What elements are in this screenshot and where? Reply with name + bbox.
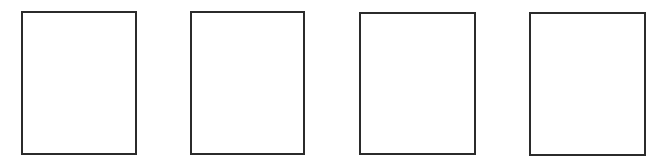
blank-frame-1	[21, 11, 137, 155]
blank-frame-2	[190, 11, 305, 155]
blank-frame-4	[529, 12, 646, 156]
blank-frame-3	[359, 12, 476, 155]
